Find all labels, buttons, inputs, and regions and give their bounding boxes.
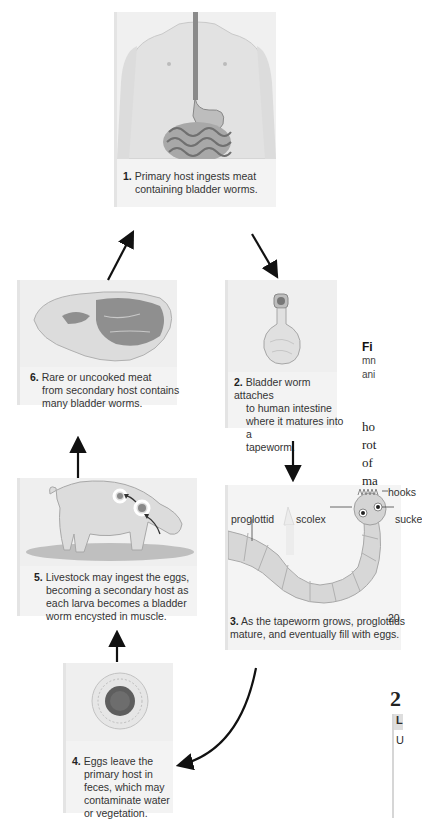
- body-text-fragment: ho rot of ma: [362, 418, 378, 490]
- arrow-1-to-2: [252, 234, 276, 275]
- figure-caption-fragment: Fi mn ani: [362, 340, 376, 382]
- arrow-3-to-4: [180, 668, 256, 765]
- page-number-fragment: 20: [388, 612, 400, 624]
- lesson-box-header: L: [394, 714, 403, 730]
- lesson-box-text: U: [394, 734, 403, 746]
- lesson-box-fragment: L U: [392, 714, 403, 818]
- section-heading-fragment: 2: [390, 686, 401, 712]
- arrow-6-to-1: [108, 234, 132, 280]
